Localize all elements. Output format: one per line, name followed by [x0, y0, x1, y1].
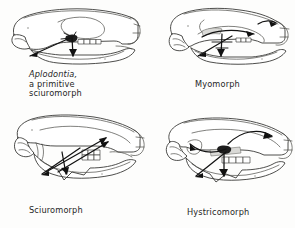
tooth-row-aplodontia: [78, 40, 101, 45]
caption-sciuromorph: Sciuromorph: [29, 206, 83, 216]
figure-root: Aplodontia, a primitive sciuromorph: [0, 0, 295, 228]
panel-myomorph: [158, 4, 294, 76]
caption-hystricomorph: Hystricomorph: [187, 208, 249, 218]
skull-drawing-myomorph: [158, 4, 294, 76]
panel-aplodontia: [4, 2, 146, 72]
caption-sciuromorph-text: Sciuromorph: [29, 206, 83, 216]
panel-sciuromorph: [6, 112, 146, 198]
caption-myomorph-text: Myomorph: [195, 80, 240, 90]
skull-drawing-aplodontia: [4, 2, 146, 72]
tooth-row-hystricomorph: [222, 157, 250, 163]
caption-aplodontia-line3: sciuromorph: [29, 89, 82, 99]
skull-drawing-hystricomorph: [156, 114, 294, 200]
caption-myomorph: Myomorph: [195, 80, 240, 90]
panel-hystricomorph: [156, 114, 294, 200]
tooth-row-myomorph: [236, 38, 251, 42]
skull-drawing-sciuromorph: [6, 112, 146, 198]
caption-aplodontia: Aplodontia, a primitive sciuromorph: [29, 70, 82, 99]
caption-hystricomorph-text: Hystricomorph: [187, 208, 249, 218]
